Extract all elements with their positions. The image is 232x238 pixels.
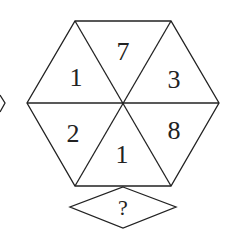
segment-top-value: 7	[117, 37, 130, 66]
segment-upper-left-value: 1	[70, 63, 83, 92]
partial-diamond-left	[0, 95, 5, 112]
answer-question-mark: ?	[118, 195, 128, 220]
segment-lower-left-value: 2	[67, 119, 80, 148]
segment-bottom-value: 1	[116, 140, 129, 169]
hexagon-puzzle-diagram: 7 3 8 1 2 1 ?	[0, 0, 232, 238]
segment-upper-right-value: 3	[168, 65, 181, 94]
segment-lower-right-value: 8	[168, 116, 181, 145]
